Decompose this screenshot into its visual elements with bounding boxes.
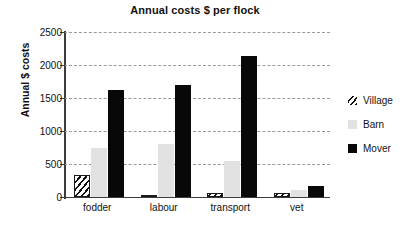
bar-chart: Annual costs $ per flock Annual $ costs … — [0, 0, 414, 227]
chart-title: Annual costs $ per flock — [60, 4, 330, 16]
bar-group: transport — [197, 32, 264, 197]
legend-item-label: Mover — [363, 143, 391, 154]
bar-vet-barn — [291, 190, 307, 197]
legend-item-mover[interactable]: Mover — [348, 136, 414, 160]
x-axis-category-label: vet — [252, 202, 342, 213]
bar-group: vet — [264, 32, 331, 197]
legend-swatch-icon — [348, 144, 357, 153]
y-axis-tick-label: 500 — [20, 159, 62, 170]
bar-labour-mover — [175, 85, 191, 197]
y-axis-tick-label: 1500 — [20, 93, 62, 104]
y-axis-title: Annual $ costs — [19, 20, 31, 140]
y-axis-tick-label: 2500 — [20, 27, 62, 38]
legend-swatch-icon — [348, 120, 357, 129]
bar-vet-mover — [308, 186, 324, 197]
legend-item-label: Barn — [363, 119, 384, 130]
y-axis-tick-label: 2000 — [20, 60, 62, 71]
bar-transport-barn — [224, 161, 240, 197]
bar-group: labour — [131, 32, 198, 197]
bar-transport-mover — [241, 56, 257, 197]
legend-swatch-icon — [348, 96, 357, 105]
legend-item-barn[interactable]: Barn — [348, 112, 414, 136]
bar-fodder-mover — [108, 90, 124, 197]
chart-legend: VillageBarnMover — [348, 88, 414, 160]
bar-labour-barn — [158, 144, 174, 197]
bar-fodder-barn — [91, 148, 107, 197]
x-axis-line — [64, 197, 330, 199]
bar-labour-village — [141, 195, 157, 197]
plot-area: 05001000150020002500fodderlabourtranspor… — [64, 32, 330, 198]
legend-item-label: Village — [363, 95, 393, 106]
bar-fodder-village — [74, 175, 90, 197]
legend-item-village[interactable]: Village — [348, 88, 414, 112]
bar-group: fodder — [64, 32, 131, 197]
y-axis-tick-label: 1000 — [20, 126, 62, 137]
bar-transport-village — [207, 193, 223, 197]
bar-vet-village — [274, 193, 290, 196]
